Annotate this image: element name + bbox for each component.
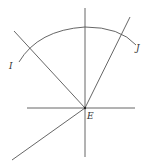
center-point-e (84, 107, 86, 109)
geometry-diagram: I J E (0, 0, 144, 165)
label-i: I (8, 61, 13, 71)
arc-i-j (19, 27, 136, 62)
label-j: J (134, 43, 141, 53)
lower-left-ray (12, 108, 85, 160)
upper-left-ray (14, 31, 85, 108)
label-e: E (86, 111, 94, 121)
upper-right-ray (85, 17, 130, 108)
